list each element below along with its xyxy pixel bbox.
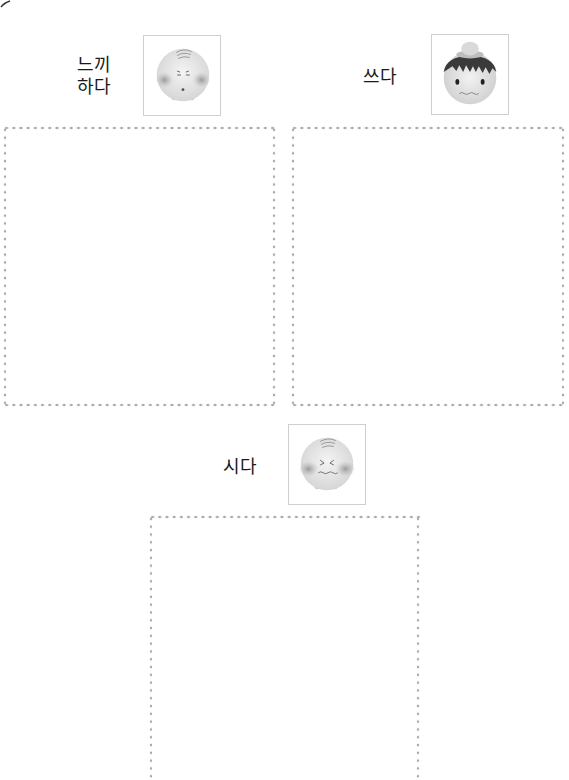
face-card-bitter — [431, 34, 509, 115]
drawing-area-sour[interactable] — [149, 515, 420, 780]
drawing-area-greasy[interactable] — [3, 126, 276, 407]
corner-mark-icon — [0, 0, 12, 8]
bitter-face-icon — [432, 35, 508, 114]
word-label-greasy: 느끼 하다 — [64, 54, 124, 98]
sour-face-icon — [289, 425, 365, 504]
word-label-bitter: 쓰다 — [350, 66, 410, 88]
drawing-area-bitter[interactable] — [291, 126, 565, 407]
word-label-sour: 시다 — [210, 456, 270, 478]
face-card-greasy — [143, 35, 221, 116]
face-card-sour — [288, 424, 366, 505]
greasy-face-icon — [144, 36, 220, 115]
